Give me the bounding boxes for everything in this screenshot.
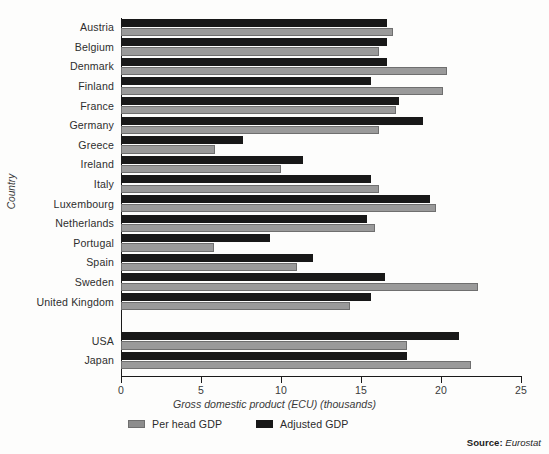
bar-per-head-gdp <box>121 302 350 310</box>
x-axis-tick <box>361 377 362 383</box>
bar-per-head-gdp <box>121 87 443 95</box>
bar-adjusted-gdp <box>121 195 430 203</box>
bar-adjusted-gdp <box>121 215 367 223</box>
bar-per-head-gdp <box>121 263 297 271</box>
bar-adjusted-gdp <box>121 273 385 281</box>
category-label: Greece <box>0 139 114 151</box>
category-label: USA <box>0 335 114 347</box>
y-axis-title: Country <box>6 174 17 210</box>
legend-item-per-head-gdp: Per head GDP <box>128 418 222 430</box>
bar-per-head-gdp <box>121 224 375 232</box>
bar-per-head-gdp <box>121 145 215 153</box>
bar-per-head-gdp <box>121 185 379 193</box>
x-axis-tick-label: 25 <box>515 384 527 396</box>
chart-row <box>121 155 521 175</box>
x-axis-tick <box>441 377 442 383</box>
chart-row <box>121 292 521 312</box>
bar-adjusted-gdp <box>121 58 387 66</box>
bar-adjusted-gdp <box>121 136 243 144</box>
gdp-bar-chart: 0510152025 AustriaBelgiumDenmarkFinlandF… <box>0 0 549 454</box>
category-label: Belgium <box>0 41 114 53</box>
bar-per-head-gdp <box>121 165 281 173</box>
bar-per-head-gdp <box>121 126 379 134</box>
x-axis-tick-label: 0 <box>118 384 124 396</box>
bar-adjusted-gdp <box>121 352 407 360</box>
bar-adjusted-gdp <box>121 254 313 262</box>
x-axis-tick-label: 20 <box>435 384 447 396</box>
bar-adjusted-gdp <box>121 156 303 164</box>
bar-per-head-gdp <box>121 106 396 114</box>
bar-adjusted-gdp <box>121 175 371 183</box>
category-label: France <box>0 100 114 112</box>
category-label: Austria <box>0 21 114 33</box>
x-axis-title: Gross domestic product (ECU) (thousands) <box>0 398 549 410</box>
chart-legend: Per head GDP Adjusted GDP <box>128 418 348 430</box>
chart-row <box>121 194 521 214</box>
category-label: Sweden <box>0 276 114 288</box>
category-label: Portugal <box>0 237 114 249</box>
chart-row <box>121 38 521 58</box>
x-axis-tick <box>281 377 282 383</box>
bar-per-head-gdp <box>121 341 407 349</box>
chart-row <box>121 116 521 136</box>
category-label: Netherlands <box>0 217 114 229</box>
bar-adjusted-gdp <box>121 38 387 46</box>
category-label: Germany <box>0 119 114 131</box>
chart-row <box>121 214 521 234</box>
chart-row <box>121 77 521 97</box>
bar-per-head-gdp <box>121 283 478 291</box>
bar-adjusted-gdp <box>121 332 459 340</box>
x-axis-tick-label: 5 <box>198 384 204 396</box>
chart-row <box>121 96 521 116</box>
bar-adjusted-gdp <box>121 293 371 301</box>
legend-swatch-adjusted-gdp <box>256 420 273 428</box>
chart-row <box>121 273 521 293</box>
category-label: Ireland <box>0 158 114 170</box>
bar-per-head-gdp <box>121 28 393 36</box>
source-label: Source: <box>467 437 503 448</box>
legend-label-per-head-gdp: Per head GDP <box>152 418 222 430</box>
x-axis-tick <box>121 377 122 383</box>
x-axis-line <box>121 376 522 377</box>
chart-row <box>121 253 521 273</box>
bar-per-head-gdp <box>121 243 214 251</box>
legend-swatch-per-head-gdp <box>128 420 145 428</box>
bar-adjusted-gdp <box>121 97 399 105</box>
category-label: Japan <box>0 354 114 366</box>
chart-row <box>121 312 521 332</box>
chart-row <box>121 136 521 156</box>
category-label: Denmark <box>0 60 114 72</box>
bar-adjusted-gdp <box>121 77 371 85</box>
legend-label-adjusted-gdp: Adjusted GDP <box>280 418 348 430</box>
chart-row <box>121 351 521 371</box>
bar-per-head-gdp <box>121 47 379 55</box>
bar-per-head-gdp <box>121 204 436 212</box>
bar-adjusted-gdp <box>121 234 270 242</box>
category-label: Spain <box>0 256 114 268</box>
category-label: United Kingdom <box>0 296 114 308</box>
bar-per-head-gdp <box>121 67 447 75</box>
x-axis-tick <box>201 377 202 383</box>
chart-row <box>121 332 521 352</box>
chart-row <box>121 175 521 195</box>
category-label: Finland <box>0 80 114 92</box>
bar-adjusted-gdp <box>121 117 423 125</box>
bar-adjusted-gdp <box>121 19 387 27</box>
source-note: Source: Eurostat <box>467 437 541 448</box>
x-axis-tick-label: 15 <box>355 384 367 396</box>
x-axis-tick-label: 10 <box>275 384 287 396</box>
chart-row <box>121 57 521 77</box>
chart-row <box>121 234 521 254</box>
bar-per-head-gdp <box>121 361 471 369</box>
chart-row <box>121 18 521 38</box>
x-axis-tick <box>521 377 522 383</box>
legend-item-adjusted-gdp: Adjusted GDP <box>256 418 348 430</box>
source-value: Eurostat <box>505 437 541 448</box>
